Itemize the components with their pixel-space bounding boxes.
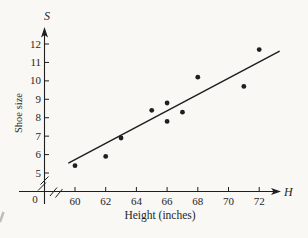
x-tick-label: 68 — [192, 195, 204, 207]
data-point — [257, 47, 262, 52]
y-tick-label: 8 — [36, 111, 42, 123]
x-tick-label: 64 — [131, 195, 143, 207]
data-point — [73, 163, 78, 168]
scan-artifact — [0, 212, 4, 222]
data-point — [103, 154, 108, 159]
trend-line — [69, 51, 279, 163]
y-axis-title: Shoe size — [13, 93, 24, 133]
data-point — [149, 108, 154, 113]
y-tick-label: 10 — [30, 74, 42, 86]
origin-label: 0 — [32, 193, 38, 205]
data-point — [165, 119, 170, 124]
y-tick-label: 9 — [36, 93, 42, 105]
scatter-chart-canvas: 60626466687072567891011120SHHeight (inch… — [0, 0, 308, 238]
x-axis-break-mark — [56, 189, 63, 198]
data-point — [180, 110, 185, 115]
y-tick-label: 7 — [36, 130, 42, 142]
x-tick-label: 70 — [223, 195, 235, 207]
x-axis-symbol: H — [283, 185, 294, 199]
y-axis-symbol: S — [44, 9, 50, 23]
data-point — [119, 136, 124, 141]
data-point — [165, 101, 170, 106]
x-axis-title: Height (inches) — [124, 209, 195, 222]
x-tick-label: 62 — [100, 195, 111, 207]
shoe-size-vs-height-figure: 60626466687072567891011120SHHeight (inch… — [0, 0, 308, 238]
x-tick-label: 60 — [70, 195, 82, 207]
data-point — [241, 84, 246, 89]
y-tick-label: 6 — [36, 148, 42, 160]
y-tick-label: 12 — [30, 38, 41, 50]
x-tick-label: 72 — [254, 195, 265, 207]
x-tick-label: 66 — [162, 195, 174, 207]
y-tick-label: 5 — [36, 167, 42, 179]
y-tick-label: 11 — [30, 56, 41, 68]
data-point — [195, 75, 200, 80]
